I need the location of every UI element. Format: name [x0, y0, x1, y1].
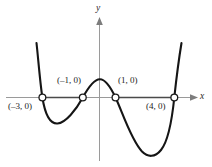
polynomial-graph-figure: y x (–3, 0) (–1, 0) (1, 0) (4, 0) [0, 0, 212, 167]
y-axis-arrowhead [96, 17, 103, 25]
y-axis-label: y [96, 4, 100, 14]
label-root-neg1: (–1, 0) [57, 76, 81, 85]
root-marker-pos4 [171, 94, 178, 101]
label-root-pos1: (1, 0) [118, 76, 138, 85]
graph-canvas [0, 0, 212, 167]
y-axis [96, 17, 103, 161]
root-marker-neg1 [79, 94, 86, 101]
polynomial-curve [37, 43, 182, 156]
label-root-neg3: (–3, 0) [8, 102, 32, 111]
root-marker-neg3 [39, 94, 46, 101]
x-axis-label: x [200, 92, 204, 102]
x-axis-arrowhead [190, 94, 198, 101]
root-marker-pos1 [112, 94, 119, 101]
label-root-pos4: (4, 0) [146, 102, 166, 111]
